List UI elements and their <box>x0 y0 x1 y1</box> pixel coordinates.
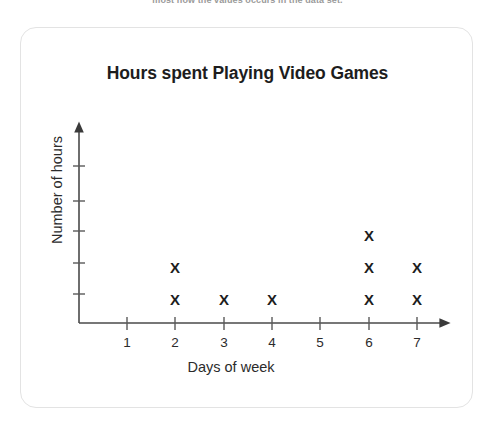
data-mark-day-6: X <box>359 227 379 245</box>
plot-svg <box>21 28 474 409</box>
data-mark-day-7: X <box>407 291 427 309</box>
clipped-header-text: most how the values occurs in the data s… <box>0 0 495 6</box>
data-mark-day-2: X <box>165 291 185 309</box>
x-tick-label-7: 7 <box>405 335 429 350</box>
x-tick-label-3: 3 <box>212 335 236 350</box>
data-mark-day-2: X <box>165 259 185 277</box>
x-tick-label-2: 2 <box>163 335 187 350</box>
y-axis-title: Number of hours <box>49 110 65 270</box>
x-axis-title: Days of week <box>21 359 441 375</box>
data-mark-day-7: X <box>407 259 427 277</box>
x-tick-label-1: 1 <box>115 335 139 350</box>
x-tick-label-4: 4 <box>260 335 284 350</box>
data-mark-day-6: X <box>359 291 379 309</box>
data-mark-day-4: X <box>262 291 282 309</box>
dot-plot: 1 2 3 4 5 6 7 XXXXXXXXX Number of hours … <box>21 28 474 409</box>
data-mark-day-6: X <box>359 259 379 277</box>
data-mark-day-3: X <box>214 291 234 309</box>
chart-card: Hours spent Playing Video Games <box>20 27 473 408</box>
clipped-header-label: most how the values occurs in the data s… <box>0 0 495 6</box>
x-tick-label-5: 5 <box>308 335 332 350</box>
x-tick-label-6: 6 <box>357 335 381 350</box>
